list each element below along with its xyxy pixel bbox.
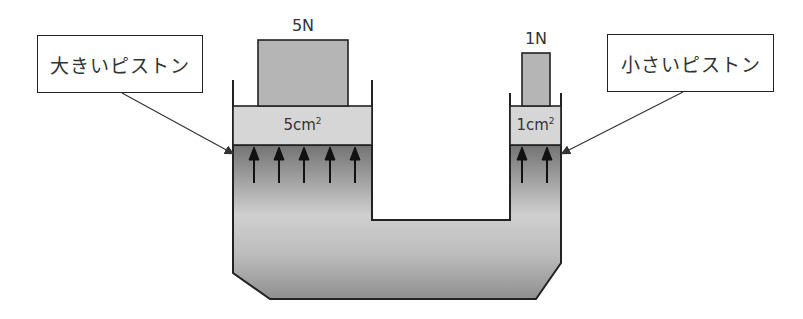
large-weight [258, 40, 348, 106]
large-piston-label-text: 大きいピストン [50, 51, 190, 78]
large-area-exponent: 2 [316, 116, 322, 126]
small-area-value: 1cm [516, 116, 548, 134]
small-force-label: 1N [511, 29, 561, 48]
small-area-label: 1cm2 [510, 116, 561, 134]
large-force-label: 5N [278, 16, 328, 35]
large-piston-leader-line [122, 93, 230, 152]
small-piston-label: 小さいピストン [607, 34, 774, 92]
large-piston-label: 大きいピストン [37, 35, 203, 93]
small-piston-leader-line [565, 92, 683, 152]
small-piston-label-text: 小さいピストン [621, 50, 761, 77]
hydraulic-press-diagram: 大きいピストン 小さいピストン 5N 1N 5cm2 1cm2 [0, 0, 803, 319]
large-area-value: 5cm [283, 116, 315, 134]
small-area-exponent: 2 [549, 116, 555, 126]
small-weight [522, 53, 550, 106]
fluid-vessel [233, 145, 561, 299]
large-area-label: 5cm2 [233, 116, 372, 134]
